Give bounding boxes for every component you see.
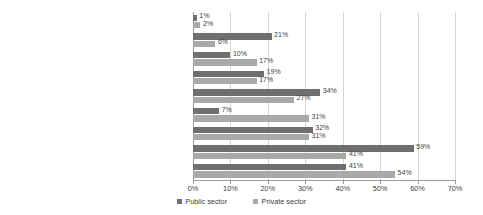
bar-private xyxy=(193,153,346,159)
chart-category-row: Based on how long I have worked for my e… xyxy=(193,68,455,87)
bar-value-label: 1% xyxy=(197,12,210,19)
chart-category-row: Linked to my team/department performance… xyxy=(193,49,455,68)
legend-label: Public sector xyxy=(185,197,227,206)
bar-public xyxy=(193,127,313,133)
x-axis-tick-label: 20% xyxy=(261,184,276,193)
bar-private xyxy=(193,22,200,28)
bar-value-label: 21% xyxy=(272,31,289,38)
bar-value-label: 6% xyxy=(215,38,228,45)
bar-value-label: 7% xyxy=(219,106,232,113)
bar-value-label: 34% xyxy=(320,87,337,94)
bar-value-label: 17% xyxy=(257,57,274,64)
bar-public xyxy=(193,145,414,151)
legend-item-private-sector[interactable]: Private sector xyxy=(253,197,306,206)
chart-category-row: Linked to how my organisation performs7%… xyxy=(193,105,455,124)
bar-value-label: 31% xyxy=(309,132,326,139)
legend-swatch-icon xyxy=(177,199,182,204)
bar-private xyxy=(193,115,309,121)
legend-swatch-icon xyxy=(253,199,258,204)
bar-value-label: 2% xyxy=(200,20,213,27)
x-axis-tick-label: 40% xyxy=(335,184,350,193)
chart-category-row: Based on a trades union negotiated deal2… xyxy=(193,31,455,50)
bar-private xyxy=(193,97,294,103)
bar-private xyxy=(193,134,309,140)
bar-public xyxy=(193,71,264,77)
chart-category-row: Linked to the going rate to that I do34%… xyxy=(193,87,455,106)
chart-legend: Public sectorPrivate sector xyxy=(0,197,483,206)
x-axis-tick-label: 10% xyxy=(223,184,238,193)
bar-public xyxy=(193,33,272,39)
chart-category-row: How old I am1%2% xyxy=(193,12,455,31)
bar-value-label: 10% xyxy=(230,50,247,57)
bar-value-label: 31% xyxy=(309,113,326,120)
bar-public xyxy=(193,164,346,170)
chart-category-row: Based on my experience32%31% xyxy=(193,124,455,143)
x-axis-tick-label: 50% xyxy=(373,184,388,193)
bar-value-label: 17% xyxy=(257,76,274,83)
x-axis-tick-label: 70% xyxy=(448,184,463,193)
x-axis-tick-label: 30% xyxy=(298,184,313,193)
bar-private xyxy=(193,78,257,84)
bar-private xyxy=(193,59,257,65)
bar-value-label: 59% xyxy=(414,143,431,150)
plot-area: How old I am1%2%Based on a trades union … xyxy=(193,12,455,180)
legend-item-public-sector[interactable]: Public sector xyxy=(177,197,227,206)
bar-private xyxy=(193,41,215,47)
x-axis-tick-label: 60% xyxy=(410,184,425,193)
bar-value-label: 41% xyxy=(346,150,363,157)
bar-value-label: 41% xyxy=(346,162,363,169)
bar-value-label: 19% xyxy=(264,68,281,75)
chart-category-row: Linked to inflation/cost of living59%41% xyxy=(193,143,455,162)
x-axis-tick-label: 0% xyxy=(188,184,199,193)
chart-category-row: Personal performance41%54% xyxy=(193,161,455,180)
bar-value-label: 27% xyxy=(294,94,311,101)
x-axis-line xyxy=(193,180,455,181)
bar-chart: How old I am1%2%Based on a trades union … xyxy=(0,0,483,215)
legend-label: Private sector xyxy=(262,197,307,206)
bar-value-label: 32% xyxy=(313,124,330,131)
bar-value-label: 54% xyxy=(395,169,412,176)
bar-public xyxy=(193,108,219,114)
bar-private xyxy=(193,171,395,177)
bar-public xyxy=(193,52,230,58)
gridline-70 xyxy=(455,12,456,180)
